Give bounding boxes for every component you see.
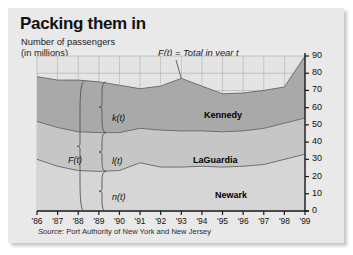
y-tick-label-90: 90 [312, 50, 334, 60]
x-tick-label-y95: '95 [212, 216, 234, 226]
x-tick-label-y97: '97 [253, 216, 275, 226]
region-label-kennedy: Kennedy [204, 110, 242, 120]
chart-source-note: Source: Port Authority of New York and N… [38, 227, 211, 236]
y-tick-label-30: 30 [312, 153, 334, 163]
y-tick-label-40: 40 [312, 136, 334, 146]
annotation-kennedy-kt: k(t) [112, 113, 125, 123]
y-tick-label-60: 60 [312, 102, 334, 112]
x-tick-label-y99: '99 [294, 216, 316, 226]
y-tick-label-0: 0 [312, 205, 334, 215]
annotation-total-ft: F(t) [68, 155, 82, 165]
y-tick-label-80: 80 [312, 67, 334, 77]
x-tick-label-y87: '87 [47, 216, 69, 226]
x-tick-label-y88: '88 [67, 216, 89, 226]
x-tick-label-y91: '91 [129, 216, 151, 226]
x-tick-label-y98: '98 [273, 216, 295, 226]
x-tick-label-y86: '86 [26, 216, 48, 226]
annotation-newark-nt: n(t) [112, 192, 126, 202]
y-tick-label-10: 10 [312, 188, 334, 198]
area-chart-svg [8, 8, 344, 243]
plot-area [8, 8, 344, 243]
source-text: Port Authority of New York and New Jerse… [64, 227, 211, 236]
y-tick-label-50: 50 [312, 119, 334, 129]
y-tick-label-70: 70 [312, 84, 334, 94]
x-tick-label-y92: '92 [150, 216, 172, 226]
x-tick-label-y90: '90 [108, 216, 130, 226]
annotation-laguardia-lt: l(t) [112, 156, 123, 166]
region-label-newark: Newark [215, 190, 247, 200]
x-tick-label-y93: '93 [170, 216, 192, 226]
source-prefix: Source: [38, 227, 64, 236]
y-tick-label-20: 20 [312, 171, 334, 181]
x-tick-label-y94: '94 [191, 216, 213, 226]
chart-figure-panel: Packing them in Number of passengers (in… [8, 8, 344, 243]
region-label-laguardia: LaGuardia [193, 155, 238, 165]
x-tick-label-y96: '96 [232, 216, 254, 226]
x-tick-label-y89: '89 [88, 216, 110, 226]
